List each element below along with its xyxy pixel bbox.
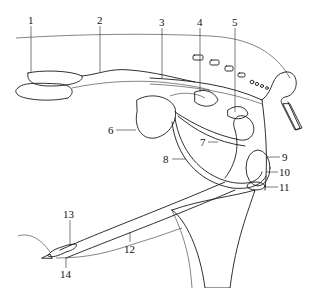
label-10: 10 bbox=[279, 166, 291, 178]
label-8: 8 bbox=[163, 153, 169, 165]
label-2: 2 bbox=[97, 14, 103, 26]
tail bbox=[262, 72, 300, 130]
sigmoid-curve bbox=[175, 118, 262, 183]
urethra-loop bbox=[175, 112, 254, 178]
belly-line bbox=[18, 235, 50, 252]
hind-leg bbox=[172, 190, 255, 288]
bladder bbox=[136, 96, 175, 138]
label-1: 1 bbox=[28, 14, 34, 26]
gland-5 bbox=[228, 107, 248, 119]
label-13: 13 bbox=[63, 208, 75, 220]
leader-lines bbox=[31, 26, 280, 268]
label-11: 11 bbox=[279, 181, 290, 193]
spermatic-cord bbox=[262, 100, 266, 190]
prepuce-hair bbox=[42, 254, 52, 258]
label-9: 9 bbox=[282, 151, 288, 163]
label-14: 14 bbox=[60, 268, 72, 280]
anatomical-diagram: 1 2 3 4 5 6 7 8 9 10 11 12 13 14 bbox=[0, 0, 310, 288]
label-7: 7 bbox=[200, 136, 206, 148]
label-12: 12 bbox=[124, 243, 135, 255]
labels: 1 2 3 4 5 6 7 8 9 10 11 12 13 14 bbox=[28, 14, 291, 280]
glans bbox=[48, 244, 77, 257]
gland-4 bbox=[195, 90, 218, 106]
penis-shaft bbox=[60, 182, 225, 250]
vertebrae bbox=[193, 55, 268, 89]
label-5: 5 bbox=[232, 16, 238, 28]
label-3: 3 bbox=[159, 16, 165, 28]
label-4: 4 bbox=[197, 16, 203, 28]
label-6: 6 bbox=[108, 124, 114, 136]
